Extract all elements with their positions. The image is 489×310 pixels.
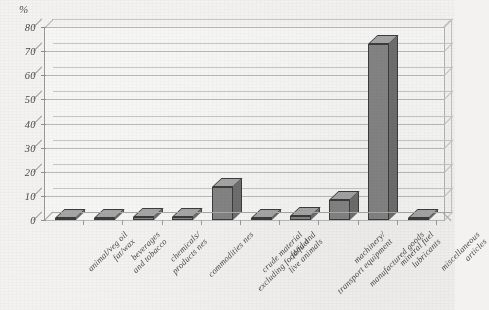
y-tick-mark xyxy=(41,51,46,52)
bar-top-face xyxy=(55,209,86,218)
x-category-label: miscellaneous articles xyxy=(439,230,489,280)
y-axis-unit-label: % xyxy=(19,3,29,15)
x-axis-separator xyxy=(318,220,319,225)
y-tick-mark xyxy=(41,124,46,125)
x-category-label: chemicals/ products nes xyxy=(163,230,209,276)
bar xyxy=(368,44,389,220)
y-tick-label: 40 xyxy=(10,118,36,129)
bar-front-face xyxy=(368,44,389,220)
y-tick-label: 50 xyxy=(10,94,36,105)
bar xyxy=(329,200,350,220)
y-tick-mark xyxy=(41,196,46,197)
x-axis-separator xyxy=(397,220,398,225)
x-category-label: commodities nes xyxy=(207,230,256,279)
y-tick-label: 80 xyxy=(10,22,36,33)
x-axis-separator xyxy=(279,220,280,225)
y-tick-label: 60 xyxy=(10,70,36,81)
y-tick-label: 20 xyxy=(10,166,36,177)
bar xyxy=(212,187,233,220)
bar-side-face xyxy=(389,35,398,220)
x-category-label: food and live animals xyxy=(280,230,325,275)
plot-floor xyxy=(44,220,452,229)
bar-front-face xyxy=(329,200,350,220)
x-axis-separator xyxy=(358,220,359,225)
bar-front-face xyxy=(212,187,233,220)
y-tick-mark xyxy=(41,172,46,173)
x-axis-separator xyxy=(436,220,437,225)
x-axis-separator xyxy=(240,220,241,225)
bar-top-face xyxy=(94,209,125,218)
x-category-label: mineral fuel lubricants xyxy=(398,230,443,275)
y-tick-mark xyxy=(41,75,46,76)
y-tick-label: 70 xyxy=(10,46,36,57)
bar-top-face xyxy=(408,209,439,218)
y-tick-label: 0 xyxy=(10,215,36,226)
y-tick-label: 10 xyxy=(10,190,36,201)
x-axis-separator xyxy=(83,220,84,225)
y-tick-mark xyxy=(41,27,46,28)
gridline-back xyxy=(53,19,452,20)
y-tick-label: 30 xyxy=(10,142,36,153)
y-tick-mark xyxy=(41,99,46,100)
gridline xyxy=(45,27,444,28)
plot-floor-right-edge xyxy=(443,212,444,221)
plot-area xyxy=(44,27,445,221)
x-axis-separator xyxy=(122,220,123,225)
x-axis-separator xyxy=(201,220,202,225)
y-tick-mark xyxy=(41,148,46,149)
bar-top-face xyxy=(251,209,282,218)
x-axis-separator xyxy=(162,220,163,225)
